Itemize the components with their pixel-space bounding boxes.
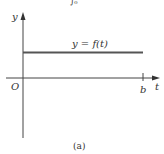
top-fragment-text: ∫₀ [70, 0, 77, 6]
tick-b-label: b [140, 84, 146, 95]
y-axis-arrow-icon [21, 12, 26, 20]
function-label: y = f(t) [71, 38, 108, 49]
y-axis-label: y [11, 11, 18, 22]
t-axis-arrow-icon [152, 76, 160, 81]
graph-figure: ∫₀ y t O y = f(t) b (a) [0, 0, 164, 154]
origin-label: O [11, 81, 19, 92]
figure-caption: (a) [73, 141, 85, 151]
t-axis-label: t [155, 81, 160, 92]
